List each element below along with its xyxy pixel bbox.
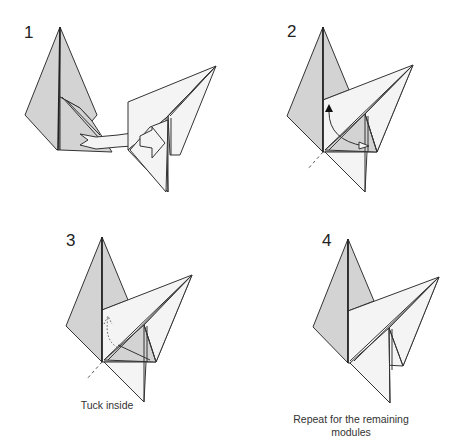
step-4-caption: Repeat for the remaining modules: [291, 413, 411, 439]
step-3-caption: Tuck inside: [77, 399, 137, 412]
step-3-panel: 3 Tuck inside: [0, 220, 229, 441]
step-2-diagram: [229, 0, 458, 220]
step-1-diagram: [0, 0, 229, 220]
step-4-diagram: [229, 220, 458, 441]
step-2-panel: 2: [229, 0, 458, 220]
insert-arrow-icon: [80, 133, 132, 149]
step-4-panel: 4 Repeat for the remaining modules: [229, 220, 458, 441]
step-4-caption-line-2: modules: [291, 426, 411, 439]
step-4-caption-line-1: Repeat for the remaining: [291, 413, 411, 426]
step-1-panel: 1: [0, 0, 229, 220]
